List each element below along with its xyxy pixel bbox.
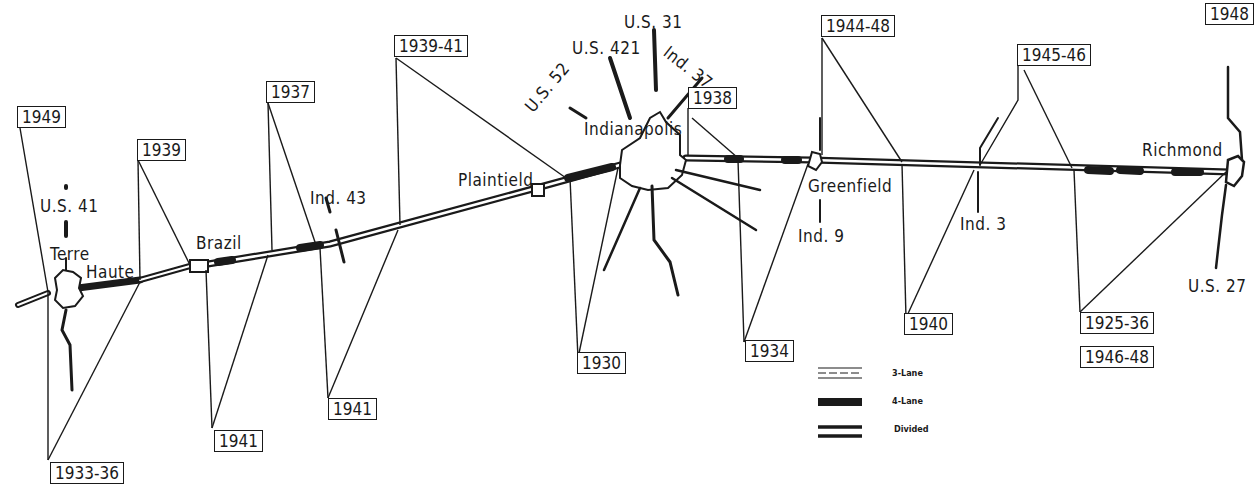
- year-label-1939-41: 1939-41: [394, 35, 468, 57]
- year-label-1946-48: 1946-48: [1080, 346, 1154, 368]
- route-label-us421: U.S. 421: [572, 38, 641, 58]
- year-label-1941-brazil: 1941: [214, 430, 263, 452]
- city-label-brazil: Brazil: [196, 233, 242, 253]
- year-label-1939: 1939: [137, 139, 186, 161]
- city-label-greenfield: Greenfield: [808, 176, 892, 196]
- legend-label-three-lane: 3-Lane: [892, 368, 923, 378]
- route-label-ind43: Ind. 43: [310, 188, 367, 208]
- year-label-1945-46: 1945-46: [1017, 44, 1091, 66]
- city-label-terre-haute-line2: Haute: [86, 262, 134, 282]
- route-label-ind3: Ind. 3: [960, 214, 1006, 234]
- year-label-1948: 1948: [1205, 3, 1254, 25]
- greenfield-city: [808, 152, 822, 170]
- year-label-1934: 1934: [745, 340, 794, 362]
- route-label-us31: U.S. 31: [624, 12, 682, 32]
- route-label-us41: U.S. 41: [40, 196, 98, 216]
- route-label-ind9: Ind. 9: [798, 226, 844, 246]
- legend-symbols: [818, 368, 862, 436]
- year-label-1938: 1938: [688, 87, 737, 109]
- city-label-indianapolis: Indianapolis: [584, 119, 682, 139]
- legend-label-four-lane: 4-Lane: [892, 396, 923, 406]
- city-label-terre-haute-line1: Terre: [50, 244, 90, 264]
- legend-three-lane-symbol: [818, 368, 862, 378]
- year-label-1944-48: 1944-48: [821, 15, 895, 37]
- year-label-1941-ind43: 1941: [328, 398, 377, 420]
- legend-label-divided: Divided: [894, 424, 929, 434]
- terre-haute-city: [55, 270, 83, 308]
- year-label-1949: 1949: [17, 106, 66, 128]
- route-label-us27: U.S. 27: [1188, 276, 1246, 296]
- year-label-1937: 1937: [266, 81, 315, 103]
- city-label-plainfield: Plaintield: [458, 170, 533, 190]
- legend-divided-symbol: [818, 427, 862, 436]
- year-label-1930: 1930: [577, 352, 626, 374]
- year-label-1925-36: 1925-36: [1080, 312, 1154, 334]
- highway-east: [686, 158, 1230, 172]
- year-label-1933-36: 1933-36: [50, 462, 124, 484]
- city-label-richmond: Richmond: [1142, 140, 1223, 160]
- year-label-1940: 1940: [904, 313, 953, 335]
